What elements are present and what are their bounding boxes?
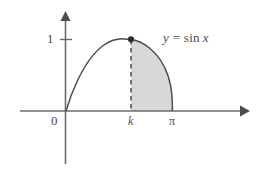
x-tick-label-k: k: [128, 115, 133, 127]
plot-canvas: [0, 0, 259, 179]
sine-curve-figure: 1 0 k π y = sin x: [0, 0, 259, 179]
y-tick-label-one: 1: [47, 32, 54, 45]
point-marker-on-curve: [128, 36, 134, 42]
x-tick-label-pi: π: [169, 115, 175, 127]
x-axis-arrowhead: [240, 106, 250, 117]
y-axis-arrowhead: [61, 11, 71, 21]
equation-argument-x: x: [203, 30, 209, 45]
equation-equals-sign: =: [169, 30, 184, 45]
origin-label: 0: [51, 114, 58, 127]
equation-sin-function: sin: [184, 30, 203, 45]
curve-equation-label: y = sin x: [163, 31, 209, 44]
